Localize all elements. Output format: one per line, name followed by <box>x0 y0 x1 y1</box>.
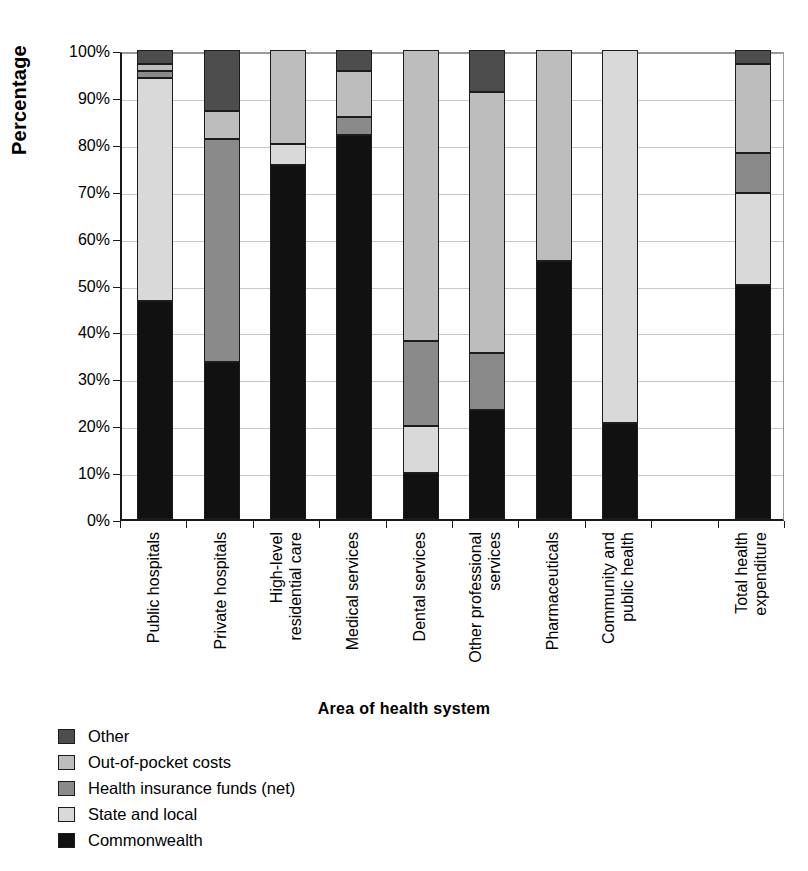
legend-item-3[interactable]: State and local <box>58 801 295 827</box>
bar-6[interactable] <box>536 50 572 519</box>
bar-1[interactable] <box>204 50 240 519</box>
x-category-label-line: public health <box>618 532 637 672</box>
y-tick-label: 90% <box>48 91 110 107</box>
bar-9[interactable] <box>735 50 771 519</box>
bar-segment[interactable] <box>403 473 439 519</box>
y-tick-mark <box>113 380 120 381</box>
bar-segment[interactable] <box>469 50 505 92</box>
y-tick-label: 30% <box>48 372 110 388</box>
y-tick-mark <box>113 146 120 147</box>
bar-segment[interactable] <box>403 341 439 426</box>
bar-5[interactable] <box>469 50 505 519</box>
y-tick-mark <box>113 474 120 475</box>
x-tick-mark <box>186 521 187 528</box>
bar-segment[interactable] <box>602 50 638 423</box>
bar-segment[interactable] <box>469 410 505 519</box>
bar-3[interactable] <box>336 50 372 519</box>
bar-segment[interactable] <box>137 301 173 519</box>
legend-item-1[interactable]: Out-of-pocket costs <box>58 749 295 775</box>
x-category-label: Total healthexpenditure <box>732 532 770 672</box>
y-tick-label: 100% <box>48 44 110 60</box>
bar-segment[interactable] <box>403 50 439 341</box>
y-tick-label: 50% <box>48 279 110 295</box>
bar-7[interactable] <box>602 50 638 519</box>
y-tick-mark <box>113 99 120 100</box>
x-category-label: Dental services <box>410 532 429 672</box>
x-axis-title: Area of health system <box>0 700 808 718</box>
bar-segment[interactable] <box>204 50 240 111</box>
bar-0[interactable] <box>137 50 173 519</box>
y-tick-label: 20% <box>48 419 110 435</box>
legend-item-0[interactable]: Other <box>58 723 295 749</box>
bar-segment[interactable] <box>336 117 372 135</box>
x-category-label: Medical services <box>343 532 362 672</box>
bar-segment[interactable] <box>270 144 306 165</box>
bar-segment[interactable] <box>735 153 771 193</box>
bar-segment[interactable] <box>204 139 240 362</box>
y-tick-mark <box>113 52 120 53</box>
y-tick-label: 80% <box>48 138 110 154</box>
legend-label: Out-of-pocket costs <box>88 754 231 771</box>
bar-segment[interactable] <box>336 135 372 519</box>
bar-4[interactable] <box>403 50 439 519</box>
x-tick-mark <box>651 521 652 528</box>
bar-segment[interactable] <box>204 111 240 139</box>
legend-item-2[interactable]: Health insurance funds (net) <box>58 775 295 801</box>
bar-segment[interactable] <box>137 64 173 71</box>
x-category-label-line: services <box>485 532 504 672</box>
legend-swatch-icon <box>58 833 75 848</box>
x-tick-mark <box>386 521 387 528</box>
x-tick-mark <box>120 521 121 528</box>
bar-segment[interactable] <box>336 50 372 71</box>
x-category-label: High-levelresidential care <box>267 532 305 672</box>
bar-segment[interactable] <box>469 353 505 410</box>
stacked-bar-chart: Percentage 0%10%20%30%40%50%60%70%80%90%… <box>0 0 808 871</box>
x-tick-mark <box>253 521 254 528</box>
x-category-label-line: Private hospitals <box>211 532 230 672</box>
bar-segment[interactable] <box>270 165 306 519</box>
x-tick-mark <box>518 521 519 528</box>
bar-segment[interactable] <box>137 78 173 301</box>
bar-segment[interactable] <box>270 50 306 144</box>
bar-segment[interactable] <box>403 426 439 473</box>
x-category-label-line: Medical services <box>343 532 362 672</box>
y-tick-label: 0% <box>48 513 110 529</box>
chart-legend: OtherOut-of-pocket costsHealth insurance… <box>58 723 295 853</box>
x-category-label: Other professionalservices <box>466 532 504 672</box>
x-tick-mark <box>452 521 453 528</box>
bar-segment[interactable] <box>536 261 572 519</box>
x-category-label-line: Dental services <box>410 532 429 672</box>
bar-segment[interactable] <box>735 64 771 153</box>
legend-item-4[interactable]: Commonwealth <box>58 827 295 853</box>
x-tick-mark <box>718 521 719 528</box>
y-tick-label: 10% <box>48 466 110 482</box>
bar-segment[interactable] <box>137 71 173 78</box>
x-tick-mark <box>784 521 785 528</box>
y-tick-label: 70% <box>48 185 110 201</box>
bar-segment[interactable] <box>735 285 771 520</box>
bar-segment[interactable] <box>735 193 771 284</box>
bar-segment[interactable] <box>204 362 240 519</box>
legend-label: State and local <box>88 806 197 823</box>
x-category-label-line: Public hospitals <box>144 532 163 672</box>
y-tick-mark <box>113 193 120 194</box>
bar-segment[interactable] <box>602 423 638 519</box>
bar-segment[interactable] <box>735 50 771 64</box>
legend-swatch-icon <box>58 807 75 822</box>
bar-2[interactable] <box>270 50 306 519</box>
y-tick-label: 40% <box>48 325 110 341</box>
bar-segment[interactable] <box>536 50 572 261</box>
bar-segment[interactable] <box>137 50 173 64</box>
bar-segment[interactable] <box>469 92 505 352</box>
x-category-label-line: Pharmaceuticals <box>543 532 562 672</box>
y-tick-mark <box>113 287 120 288</box>
x-category-label-line: Other professional <box>466 532 485 672</box>
legend-swatch-icon <box>58 781 75 796</box>
legend-label: Health insurance funds (net) <box>88 780 295 797</box>
legend-swatch-icon <box>58 729 75 744</box>
x-tick-mark <box>319 521 320 528</box>
x-category-label-line: expenditure <box>751 532 770 672</box>
legend-label: Commonwealth <box>88 832 203 849</box>
bar-segment[interactable] <box>336 71 372 117</box>
x-category-label-line: residential care <box>286 532 305 672</box>
